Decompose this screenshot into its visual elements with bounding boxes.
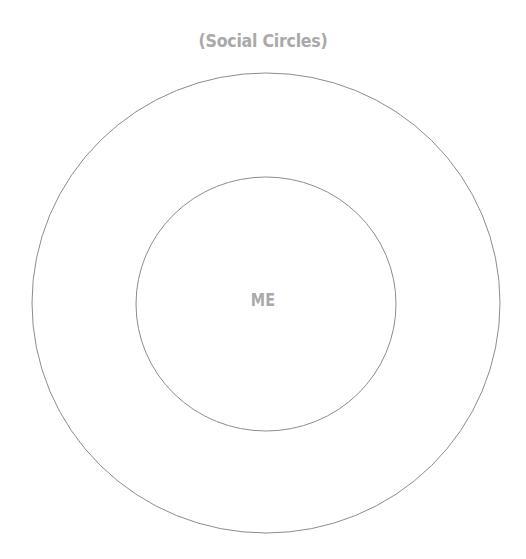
center-label-me: ME: [39, 290, 486, 310]
social-circles-diagram: [0, 0, 526, 559]
